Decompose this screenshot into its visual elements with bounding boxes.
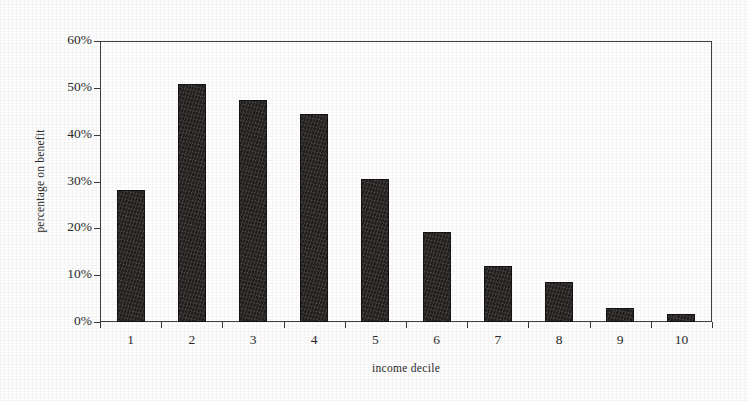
x-axis-tick-label: 9: [590, 332, 651, 348]
y-axis-tick-label: 40%: [48, 126, 92, 142]
bar-8: [545, 282, 573, 322]
x-axis-tick-label: 6: [406, 332, 467, 348]
x-axis-tick-label: 8: [529, 332, 590, 348]
x-axis-tick-label: 3: [223, 332, 284, 348]
x-axis-tick-label: 7: [467, 332, 528, 348]
x-axis-tick-mark: [651, 322, 652, 328]
y-axis-tick-label: 0%: [48, 313, 92, 329]
bar-10: [667, 314, 695, 322]
x-axis-tick-mark: [712, 322, 713, 328]
x-axis-tick-label: 5: [345, 332, 406, 348]
y-axis-tick-label: 50%: [48, 79, 92, 95]
bar-3: [239, 100, 267, 322]
x-axis-tick-mark: [222, 322, 223, 328]
x-axis-tick-label: 1: [100, 332, 161, 348]
y-axis-tick-label: 60%: [48, 32, 92, 48]
y-axis-tick-label: 20%: [48, 219, 92, 235]
x-axis-title: income decile: [100, 362, 712, 374]
bar-4: [300, 114, 328, 322]
bar-1: [117, 190, 145, 322]
x-axis-tick-label: 4: [284, 332, 345, 348]
y-axis-tick-label: 10%: [48, 266, 92, 282]
x-axis-tick-mark: [345, 322, 346, 328]
y-axis-tick-labels: 0%10%20%30%40%50%60%: [20, 0, 92, 401]
bar-2: [178, 84, 206, 322]
x-axis-tick-label: 2: [161, 332, 222, 348]
bar-5: [361, 179, 389, 322]
x-axis-tick-mark: [590, 322, 591, 328]
x-axis-tick-mark: [528, 322, 529, 328]
bar-6: [423, 232, 451, 322]
x-axis-tick-mark: [100, 322, 101, 328]
x-axis-tick-labels: 12345678910: [100, 332, 712, 354]
y-axis-tick-label: 30%: [48, 173, 92, 189]
x-axis-tick-mark: [284, 322, 285, 328]
bar-7: [484, 266, 512, 322]
x-axis-tick-label: 10: [651, 332, 712, 348]
bar-chart: percentage on benefit 0%10%20%30%40%50%6…: [0, 0, 748, 401]
x-axis-tick-mark: [467, 322, 468, 328]
bar-9: [606, 308, 634, 322]
x-axis-tick-mark: [161, 322, 162, 328]
x-axis-tick-mark: [406, 322, 407, 328]
x-axis-tick-marks: [100, 322, 712, 329]
plot-area: [100, 41, 712, 322]
